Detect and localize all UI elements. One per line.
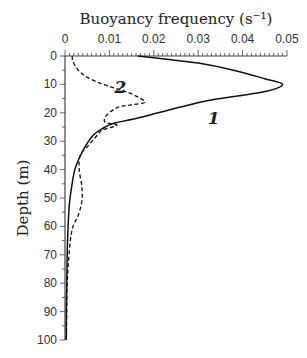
y-tick-label: 100 <box>37 333 57 347</box>
y-tick-label: 30 <box>44 134 58 148</box>
y-tick-label: 10 <box>44 77 58 91</box>
y-axis: 0102030405060708090100 <box>37 49 65 347</box>
x-tick-label: 0.04 <box>231 32 255 46</box>
curve-label-2: 2 <box>114 77 127 97</box>
y-tick-label: 50 <box>44 191 58 205</box>
x-axis: 00.010.020.030.040.05 <box>62 32 299 56</box>
y-tick-label: 60 <box>44 219 58 233</box>
plot-area <box>66 56 282 340</box>
y-tick-label: 70 <box>44 248 58 262</box>
chart-title: Buoyancy frequency (s⁻¹) <box>80 10 273 28</box>
x-tick-label: 0 <box>62 32 69 46</box>
curve-1-line <box>66 56 282 340</box>
y-tick-label: 40 <box>44 163 58 177</box>
y-tick-label: 0 <box>50 49 57 63</box>
y-tick-label: 80 <box>44 276 58 290</box>
y-tick-label: 90 <box>44 305 58 319</box>
x-tick-label: 0.03 <box>187 32 211 46</box>
y-tick-label: 20 <box>44 106 58 120</box>
y-axis-label: Depth (m) <box>14 160 32 237</box>
x-tick-label: 0.01 <box>98 32 122 46</box>
curve-label-1: 1 <box>208 108 220 128</box>
buoyancy-chart: Buoyancy frequency (s⁻¹) 00.010.020.030.… <box>0 0 307 358</box>
x-tick-label: 0.02 <box>142 32 166 46</box>
x-tick-label: 0.05 <box>275 32 299 46</box>
curve-2-line <box>66 56 145 340</box>
curve-labels: 12 <box>114 77 220 128</box>
